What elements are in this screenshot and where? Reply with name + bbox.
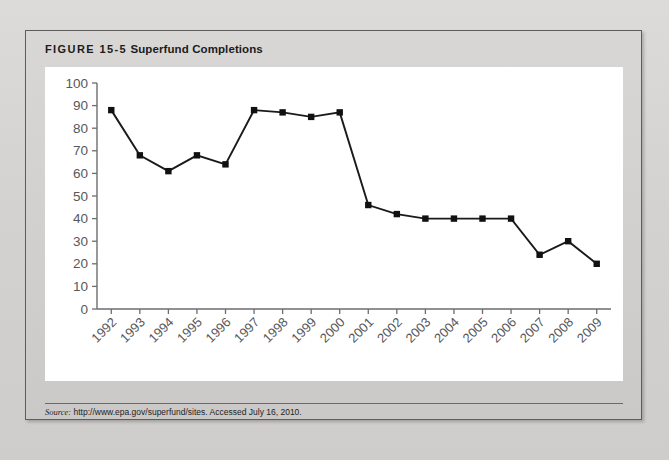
- figure-container: FIGURE 15-5 Superfund Completions 010203…: [25, 30, 642, 420]
- data-point-marker: [222, 161, 228, 167]
- data-point-marker: [536, 252, 542, 258]
- line-chart: 0102030405060708090100 19921993199419951…: [45, 67, 623, 381]
- data-point-marker: [508, 215, 514, 221]
- data-point-marker: [422, 215, 428, 221]
- y-axis-tick-label: 60: [73, 166, 88, 181]
- chart-plot-area: 0102030405060708090100 19921993199419951…: [45, 67, 623, 381]
- data-point-marker: [565, 238, 571, 244]
- data-point-marker: [337, 109, 343, 115]
- data-point-marker: [365, 202, 371, 208]
- data-point-marker: [108, 107, 114, 113]
- data-point-marker: [451, 215, 457, 221]
- y-axis-tick-label: 50: [73, 189, 88, 204]
- y-axis-tick-label: 80: [73, 121, 88, 136]
- y-axis-tick-label: 0: [80, 302, 88, 317]
- data-point-marker: [137, 152, 143, 158]
- data-point-marker: [479, 215, 485, 221]
- source-url-text: http://www.epa.gov/superfund/sites. Acce…: [71, 407, 302, 417]
- source-label: Source:: [45, 407, 71, 417]
- y-axis-tick-label: 90: [73, 98, 88, 113]
- source-divider: [45, 403, 623, 404]
- y-axis-tick-label: 30: [73, 234, 88, 249]
- y-axis-tick-label: 10: [73, 279, 88, 294]
- data-point-marker: [165, 168, 171, 174]
- source-note: Source: http://www.epa.gov/superfund/sit…: [45, 407, 302, 417]
- figure-title: FIGURE 15-5 Superfund Completions: [45, 43, 263, 55]
- data-point-marker: [194, 152, 200, 158]
- y-axis-tick-label: 100: [65, 76, 88, 91]
- data-point-marker: [308, 114, 314, 120]
- y-axis-tick-label: 70: [73, 143, 88, 158]
- data-point-marker: [394, 211, 400, 217]
- data-point-marker: [251, 107, 257, 113]
- y-axis-tick-label: 40: [73, 211, 88, 226]
- figure-caption: Superfund Completions: [130, 43, 262, 55]
- data-point-marker: [594, 261, 600, 267]
- figure-number: FIGURE 15-5: [45, 43, 127, 55]
- y-axis-tick-label: 20: [73, 256, 88, 271]
- data-point-marker: [279, 109, 285, 115]
